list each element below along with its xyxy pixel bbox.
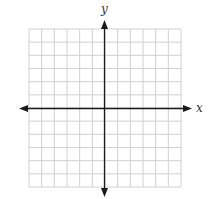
y-axis-label: y [100,2,108,16]
x-axis-label: x [196,101,203,115]
coordinate-plane: x y [0,0,218,199]
x-axis-left-arrow-icon [19,105,28,112]
y-axis-top-arrow-icon [101,20,108,29]
x-axis-right-arrow-icon [183,105,192,112]
y-axis-bottom-arrow-icon [101,188,108,197]
